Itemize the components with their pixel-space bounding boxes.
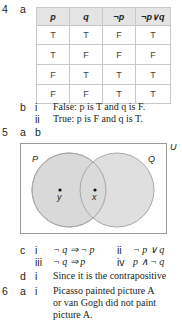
question-5d-label: d [20,270,26,282]
question-5c-iv-answer: p ∧ ¬ q [133,256,164,267]
set-p-label: P [32,154,38,164]
question-6a-label: a [20,285,26,297]
question-5c-label: c [20,244,25,256]
venn-diagram [0,0,182,240]
point-x-label: x [92,192,97,202]
question-5c-iii-answer: ¬ q ⇒ p [53,256,85,267]
question-5c-i-label: i [35,244,37,256]
point-y-label: y [57,192,62,202]
set-q-label: Q [148,154,155,164]
question-6-number: 6 [2,285,8,297]
question-6a-i-label: i [35,285,37,297]
question-6a-i-line2: or van Gogh did not paint [53,297,156,308]
question-6a-i-line1: Picasso painted picture A [53,285,154,296]
question-5d-i-label: i [35,270,37,282]
universe-label: U [170,142,177,152]
question-5c-ii-label: ii [117,244,122,256]
question-5d-i-answer: Since it is the contrapositive [53,270,166,281]
question-5c-ii-answer: ¬ p ∨ q [133,244,164,255]
question-5c-iv-label: iv [117,256,125,268]
question-6a-i-line3: picture A. [53,309,92,320]
set-q-circle [80,153,154,227]
question-5c-i-answer: ¬ q ⇒ ¬ p [53,244,95,255]
question-5c-iii-label: iii [35,256,42,268]
